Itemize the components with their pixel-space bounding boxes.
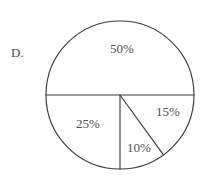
pie-chart-svg: 50% 25% 10% 15% — [0, 0, 209, 176]
slice-label-15: 15% — [156, 104, 180, 119]
slice-label-10: 10% — [127, 140, 151, 155]
pie-chart-figure: D. 50% 25% 10% 15% — [0, 0, 209, 176]
slice-label-50: 50% — [110, 41, 134, 56]
slice-label-25: 25% — [76, 116, 100, 131]
